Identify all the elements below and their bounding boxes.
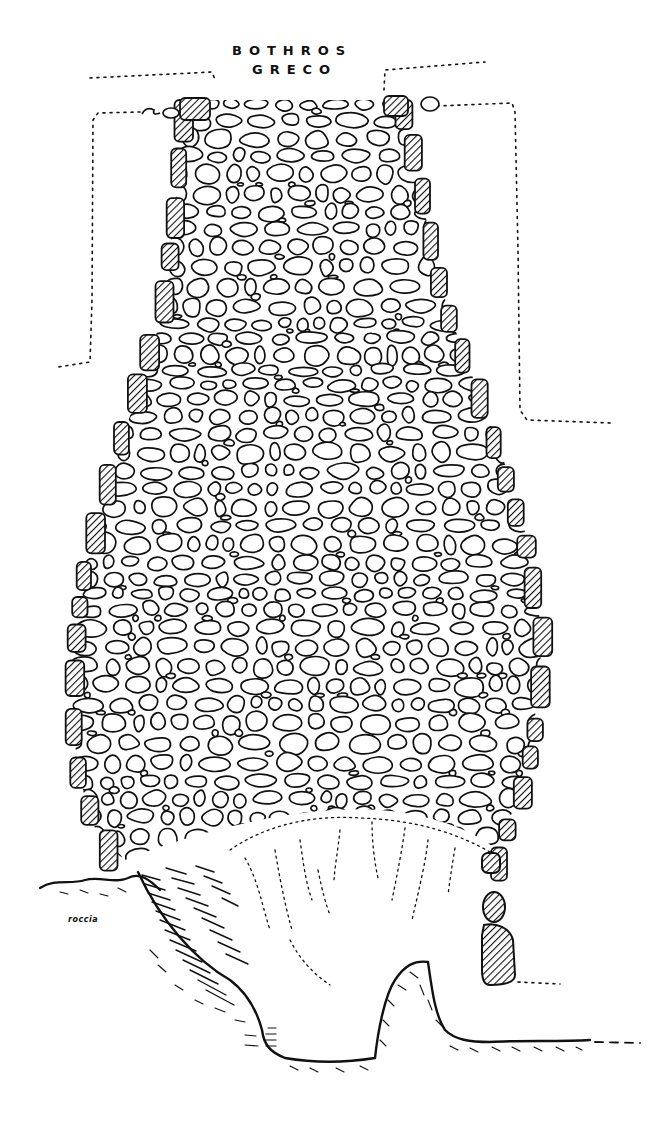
stone (467, 501, 479, 515)
stone (516, 770, 522, 776)
hatched-wall-block (431, 268, 447, 297)
stone (350, 866, 360, 870)
stone (319, 428, 336, 442)
stone (475, 827, 498, 844)
stone (522, 809, 551, 825)
stone (421, 126, 427, 132)
stone (228, 622, 249, 637)
hatched-wall-block (498, 467, 514, 491)
stone (164, 775, 177, 788)
stone (126, 657, 149, 675)
stone (322, 587, 347, 599)
stone (351, 618, 384, 635)
stone (364, 333, 380, 343)
stone (435, 219, 445, 222)
stone (234, 574, 259, 585)
stone (312, 151, 334, 161)
stone (403, 811, 427, 825)
stone (265, 751, 273, 756)
stone (269, 537, 284, 552)
stone (441, 559, 460, 571)
stone (433, 425, 458, 438)
stone (233, 299, 260, 313)
stone (252, 320, 271, 330)
stone (312, 108, 321, 114)
stone (185, 829, 210, 848)
stone (84, 692, 90, 698)
stone (157, 393, 181, 406)
stone (177, 518, 201, 533)
stone (434, 553, 441, 557)
stone (134, 715, 144, 731)
stone (324, 639, 349, 656)
stone (244, 186, 264, 201)
stone (236, 521, 258, 531)
stone (183, 298, 200, 317)
stone (243, 378, 268, 389)
stone (273, 334, 290, 345)
stone (345, 557, 359, 570)
stone (109, 604, 137, 617)
stone (179, 467, 204, 479)
stone (324, 537, 341, 552)
stone (164, 603, 187, 616)
stone (400, 758, 421, 771)
stone (404, 221, 418, 235)
stone (455, 641, 477, 655)
stone (196, 603, 208, 614)
stone (330, 696, 358, 712)
hatched-wall-block (455, 339, 469, 372)
stone (201, 345, 219, 364)
hatched-wall-block (100, 465, 116, 505)
hatched-wall-block (487, 427, 501, 458)
stone (152, 497, 177, 517)
stone (352, 573, 367, 587)
stone (336, 113, 368, 128)
stone (277, 660, 293, 675)
stone (263, 864, 271, 870)
stone (402, 317, 423, 327)
stone (366, 555, 384, 571)
stone (114, 620, 132, 635)
stone (247, 167, 260, 182)
hatched-wall-block (531, 667, 550, 708)
stone (361, 715, 391, 735)
hatched-wall-block (415, 179, 430, 214)
stone (237, 275, 246, 280)
stone (382, 497, 408, 517)
stone (453, 604, 465, 619)
stone (416, 501, 436, 514)
stone (345, 428, 373, 441)
stone (305, 201, 315, 206)
stone (192, 259, 217, 275)
stone (124, 537, 150, 555)
stone (170, 444, 189, 462)
stone (206, 300, 226, 316)
stone (481, 520, 499, 530)
stone (366, 224, 379, 237)
stone (375, 573, 388, 584)
stone (471, 773, 494, 787)
stone (354, 318, 376, 327)
stone (350, 536, 375, 553)
stone (297, 848, 317, 868)
stone (279, 318, 291, 328)
stone (295, 427, 313, 442)
stone (225, 319, 246, 331)
stone (195, 698, 223, 711)
stone (151, 755, 173, 769)
stone (275, 379, 295, 390)
stone (206, 679, 232, 693)
stone (255, 346, 265, 364)
hatched-wall-block (128, 374, 147, 413)
stone (386, 849, 408, 866)
stone (487, 805, 494, 811)
stone (274, 375, 282, 379)
stone (303, 518, 322, 530)
stone (148, 557, 167, 570)
stone (404, 865, 410, 870)
stone (355, 99, 373, 110)
stone (317, 394, 343, 406)
stone (202, 556, 225, 569)
stone (287, 329, 293, 333)
